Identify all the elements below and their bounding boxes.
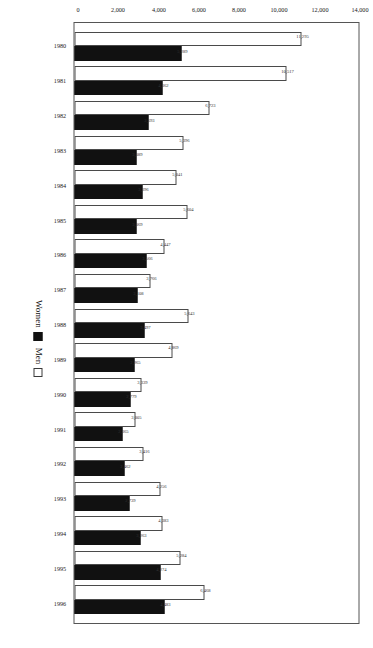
- bar-value-label: 5,284: [176, 553, 186, 558]
- category-tick-label: 1987: [50, 286, 70, 293]
- category-tick-label: 1989: [50, 355, 70, 362]
- bar-men[interactable]: 3,766: [74, 274, 150, 289]
- legend-label-women: Women: [33, 300, 43, 328]
- bar-value-label: 3,766: [146, 276, 156, 281]
- bar-group: 5,0413,396: [74, 167, 356, 202]
- value-tick-text: 10,000: [270, 6, 287, 13]
- bar-men[interactable]: 3,005: [74, 412, 135, 427]
- bar-value-label: 2,965: [130, 360, 140, 365]
- category-tick: 1993: [31, 481, 71, 516]
- bar-value-label: 3,339: [137, 380, 147, 385]
- bar-women[interactable]: 3,069: [74, 219, 136, 234]
- bar-women[interactable]: 5,289: [74, 46, 181, 61]
- value-tick-text: 6,000: [191, 6, 205, 13]
- bar-women[interactable]: 3,497: [74, 323, 144, 338]
- bar-women[interactable]: 2,965: [74, 358, 134, 373]
- category-tick-label: 1990: [50, 390, 70, 397]
- bar-women[interactable]: 3,108: [74, 288, 137, 303]
- bar-value-label: 3,108: [132, 291, 142, 296]
- bar-value-label: 3,263: [136, 533, 146, 538]
- category-tick-label: 1993: [50, 495, 70, 502]
- category-tick: 1994: [31, 516, 71, 551]
- bar-women[interactable]: 4,362: [74, 81, 162, 96]
- bar-group: 4,2562,739: [74, 479, 356, 514]
- bar-group: 5,2844,274: [74, 548, 356, 583]
- category-tick-label: 1985: [50, 216, 70, 223]
- bar-men[interactable]: 5,396: [74, 136, 183, 151]
- value-tick-text: 12,000: [311, 6, 328, 13]
- bar-men[interactable]: 3,339: [74, 378, 141, 393]
- bar-men[interactable]: 10,517: [74, 66, 286, 81]
- category-tick: 1985: [31, 202, 71, 237]
- bar-value-label: 3,089: [132, 152, 142, 157]
- bar-value-label: 6,468: [200, 588, 210, 593]
- bar-men[interactable]: 4,447: [74, 239, 164, 254]
- category-tick-label: 1994: [50, 530, 70, 537]
- bar-men[interactable]: 4,383: [74, 516, 162, 531]
- bar-group: 4,3833,263: [74, 513, 356, 548]
- bar-women[interactable]: 3,566: [74, 254, 146, 269]
- category-tick-label: 1984: [50, 181, 70, 188]
- rotated-figure: 02,0004,0006,0008,00010,00012,00014,000 …: [0, 0, 373, 648]
- bar-value-label: 4,274: [156, 567, 166, 572]
- bar-value-label: 6,723: [205, 103, 215, 108]
- bar-value-label: 2,365: [117, 429, 127, 434]
- bar-value-label: 2,739: [125, 498, 135, 503]
- plot-region: 11,2955,28910,5174,3626,7233,6935,3963,0…: [74, 23, 358, 623]
- bar-women[interactable]: 4,483: [74, 600, 164, 615]
- category-tick-label: 1986: [50, 251, 70, 258]
- bar-value-label: 3,693: [144, 118, 154, 123]
- bar-value-label: 3,005: [130, 415, 140, 420]
- category-tick: 1980: [31, 28, 71, 63]
- chart-legend: WomenMen: [33, 300, 43, 377]
- category-tick: 1983: [31, 132, 71, 167]
- bar-group: 3,7663,108: [74, 271, 356, 306]
- bar-value-label: 5,289: [176, 49, 186, 54]
- bar-women[interactable]: 2,779: [74, 392, 130, 407]
- bar-group: 4,4473,566: [74, 237, 356, 272]
- category-tick: 1981: [31, 63, 71, 98]
- bar-value-label: 4,483: [160, 602, 170, 607]
- bar-men[interactable]: 5,604: [74, 205, 187, 220]
- bar-women[interactable]: 2,462: [74, 461, 124, 476]
- bar-value-label: 10,517: [281, 69, 294, 74]
- bar-women[interactable]: 2,739: [74, 496, 129, 511]
- bar-men[interactable]: 5,284: [74, 551, 180, 566]
- category-tick-label: 1996: [50, 599, 70, 606]
- category-tick-label: 1995: [50, 564, 70, 571]
- bar-group: 3,0052,365: [74, 410, 356, 445]
- bar-men[interactable]: 4,256: [74, 482, 160, 497]
- legend-label-men: Men: [33, 348, 43, 365]
- bar-men[interactable]: 5,041: [74, 170, 176, 185]
- bar-group: 3,3392,779: [74, 375, 356, 410]
- bar-women[interactable]: 3,089: [74, 150, 136, 165]
- bar-men[interactable]: 6,723: [74, 101, 209, 116]
- bar-men[interactable]: 11,295: [74, 32, 302, 47]
- bar-men[interactable]: 6,468: [74, 585, 204, 600]
- value-tick-text: 0: [76, 7, 79, 14]
- bar-value-label: 5,643: [183, 311, 193, 316]
- bar-group: 6,7233,693: [74, 98, 356, 133]
- bar-men[interactable]: 5,643: [74, 309, 188, 324]
- bar-women[interactable]: 3,693: [74, 115, 148, 130]
- category-tick-label: 1982: [50, 112, 70, 119]
- category-tick-label: 1991: [50, 425, 70, 432]
- bar-women[interactable]: 3,396: [74, 185, 142, 200]
- bar-value-label: 11,295: [296, 34, 308, 39]
- legend-item-women[interactable]: Women: [33, 300, 43, 341]
- bar-value-label: 4,447: [159, 242, 169, 247]
- bar-group: 4,8692,965: [74, 340, 356, 375]
- bar-women[interactable]: 3,263: [74, 531, 140, 546]
- legend-item-men[interactable]: Men: [33, 348, 43, 378]
- bar-group: 5,6043,069: [74, 202, 356, 237]
- bar-women[interactable]: 2,365: [74, 427, 122, 442]
- bar-group: 3,4162,462: [74, 444, 356, 479]
- bar-men[interactable]: 4,869: [74, 343, 172, 358]
- bar-group: 5,3963,089: [74, 133, 356, 168]
- bar-groups: 11,2955,28910,5174,3626,7233,6935,3963,0…: [74, 29, 356, 617]
- category-tick-label: 1983: [50, 146, 70, 153]
- bar-group: 5,6433,497: [74, 306, 356, 341]
- bar-men[interactable]: 3,416: [74, 447, 143, 462]
- bar-value-label: 3,566: [142, 256, 152, 261]
- bar-women[interactable]: 4,274: [74, 565, 160, 580]
